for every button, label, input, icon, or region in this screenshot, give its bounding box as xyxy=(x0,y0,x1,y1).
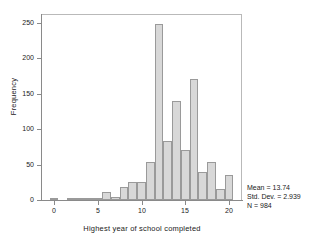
histogram-bar xyxy=(50,198,59,200)
y-tick-label: 0 xyxy=(0,196,34,203)
histogram-bar xyxy=(120,187,129,200)
histogram-bar xyxy=(181,150,190,200)
histogram-bar xyxy=(198,172,207,200)
x-tick-label: 0 xyxy=(44,207,64,215)
statistics-annotation: Mean = 13.74 Std. Dev. = 2.939 N = 984 xyxy=(247,183,313,210)
x-axis-label: Highest year of school completed xyxy=(41,224,243,233)
x-tick-label: 5 xyxy=(88,207,108,215)
x-tick-mark xyxy=(185,201,186,205)
x-tick-label: 20 xyxy=(219,207,239,215)
histogram-bar xyxy=(190,79,199,200)
y-tick-label: 50 xyxy=(0,161,34,168)
histogram-bar xyxy=(67,198,76,200)
histogram-bars xyxy=(41,14,242,200)
x-tick-mark xyxy=(229,201,230,205)
histogram-bar xyxy=(163,141,172,200)
histogram-bar xyxy=(225,175,234,200)
histogram-bar xyxy=(146,162,155,200)
histogram-bar xyxy=(128,182,137,200)
histogram-bar xyxy=(85,198,94,200)
y-tick-mark xyxy=(37,200,41,201)
histogram-bar xyxy=(155,24,164,200)
histogram-bar xyxy=(216,189,225,200)
stat-stddev: Std. Dev. = 2.939 xyxy=(247,192,313,201)
histogram-bar xyxy=(172,101,181,200)
y-axis-label: Frequency xyxy=(9,57,18,137)
stat-n: N = 984 xyxy=(247,201,313,210)
x-tick-mark xyxy=(98,201,99,205)
histogram-bar xyxy=(111,197,120,200)
x-tick-label: 10 xyxy=(132,207,152,215)
histogram-bar xyxy=(76,198,85,200)
y-tick-label: 250 xyxy=(0,19,34,26)
histogram-bar xyxy=(207,162,216,200)
histogram-figure: 050100150200250 05101520 Frequency Highe… xyxy=(0,0,315,250)
histogram-bar xyxy=(137,182,146,200)
x-tick-label: 15 xyxy=(175,207,195,215)
stat-mean: Mean = 13.74 xyxy=(247,183,313,192)
histogram-bar xyxy=(93,198,102,200)
histogram-bar xyxy=(102,192,111,200)
x-tick-mark xyxy=(54,201,55,205)
x-tick-mark xyxy=(142,201,143,205)
